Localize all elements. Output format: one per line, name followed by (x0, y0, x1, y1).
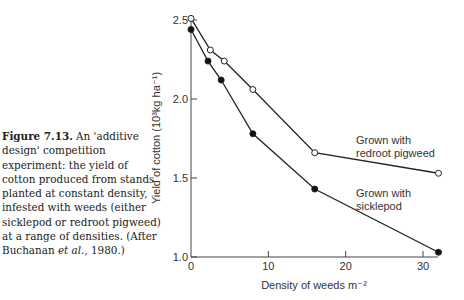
filled-marker (205, 58, 211, 64)
filled-marker (435, 249, 441, 255)
open-marker (188, 15, 194, 21)
filled-marker (250, 131, 256, 137)
label-sicklepod-line1: Grown with (356, 187, 411, 199)
x-tick-label: 30 (417, 260, 429, 272)
label-sicklepod-line2: sicklepod (356, 200, 402, 212)
open-marker (250, 87, 256, 93)
open-marker (221, 58, 227, 64)
filled-marker (312, 186, 318, 192)
yield-chart: 01020301.01.52.02.5 Grown with redroot p… (0, 0, 464, 300)
label-pigweed-line1: Grown with (356, 134, 411, 146)
y-tick-label: 1.5 (173, 172, 188, 184)
filled-marker (188, 26, 194, 32)
open-marker (435, 170, 441, 176)
filled-marker (218, 77, 224, 83)
y-tick-label: 1.0 (173, 251, 188, 263)
x-tick-label: 10 (262, 260, 274, 272)
x-tick-label: 0 (188, 260, 194, 272)
y-tick-label: 2.5 (173, 14, 188, 26)
y-axis-label: Yield of cotton (10³kg ha⁻¹) (150, 72, 162, 204)
x-axis-label: Density of weeds m⁻² (261, 279, 367, 291)
open-marker (312, 150, 318, 156)
x-tick-label: 20 (340, 260, 352, 272)
label-pigweed-line2: redroot pigweed (356, 147, 435, 159)
open-marker (207, 47, 213, 53)
y-tick-label: 2.0 (173, 93, 188, 105)
